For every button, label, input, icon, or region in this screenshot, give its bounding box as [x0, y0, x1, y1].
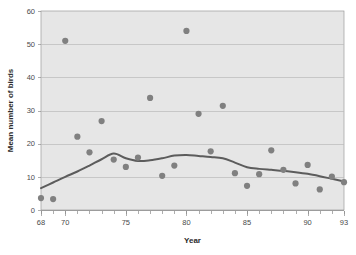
data-point — [135, 155, 141, 161]
data-point — [305, 162, 311, 168]
data-point — [220, 103, 226, 109]
data-point — [317, 186, 323, 192]
y-tick-label-60: 60 — [27, 7, 35, 16]
data-point — [38, 195, 44, 201]
chart-canvas: 0102030405060 68707580859093 Year Mean n… — [0, 0, 356, 255]
data-point — [62, 38, 68, 44]
y-tick-label-40: 40 — [27, 73, 35, 82]
data-point — [99, 118, 105, 124]
x-axis-title: Year — [184, 236, 201, 245]
y-tick-label-30: 30 — [27, 106, 35, 115]
data-point — [111, 156, 117, 162]
data-point — [268, 147, 274, 153]
data-point — [256, 171, 262, 177]
x-tick-label-80: 80 — [182, 218, 190, 227]
y-tick-label-50: 50 — [27, 40, 35, 49]
x-tick-label-90: 90 — [303, 218, 311, 227]
data-point — [244, 183, 250, 189]
data-point — [147, 95, 153, 101]
x-tick-label-70: 70 — [61, 218, 69, 227]
y-tick-label-10: 10 — [27, 173, 35, 182]
x-tick-label-93: 93 — [340, 218, 348, 227]
data-point — [183, 28, 189, 34]
data-point — [123, 164, 129, 170]
data-point — [86, 149, 92, 155]
data-point — [292, 180, 298, 186]
x-tick-label-68: 68 — [37, 218, 45, 227]
data-point — [232, 170, 238, 176]
data-point — [341, 179, 347, 185]
data-point — [280, 167, 286, 173]
y-axis-title: Mean number of birds — [6, 68, 15, 152]
y-tick-label-20: 20 — [27, 139, 35, 148]
data-point — [195, 111, 201, 117]
data-point — [208, 148, 214, 154]
y-tick-label-0: 0 — [31, 206, 35, 215]
data-point — [50, 196, 56, 202]
data-point — [171, 162, 177, 168]
plot-area-background — [41, 11, 344, 210]
x-tick-label-75: 75 — [122, 218, 130, 227]
x-tick-label-85: 85 — [243, 218, 251, 227]
data-point — [159, 173, 165, 179]
bird-count-scatter-chart: 0102030405060 68707580859093 Year Mean n… — [0, 0, 356, 255]
data-point — [329, 173, 335, 179]
data-point — [74, 134, 80, 140]
